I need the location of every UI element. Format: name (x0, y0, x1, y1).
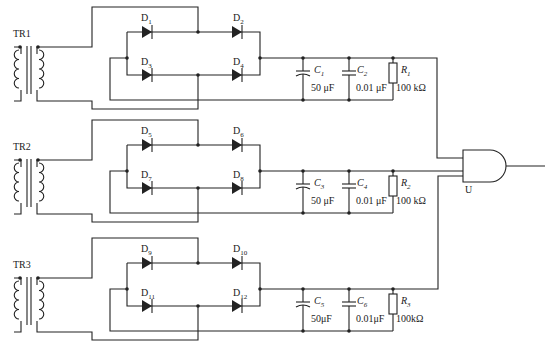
diode-icon (142, 300, 152, 312)
resistor-label: R2 (400, 177, 411, 191)
capacitor-value: 0.01 μF (356, 195, 387, 206)
wire (37, 7, 198, 54)
resistor-value: 100 kΩ (396, 195, 426, 206)
junction-dot (196, 304, 200, 308)
wire (14, 203, 21, 214)
diode-icon (142, 26, 152, 38)
rectifier-stage-2: TR2D5D6D7D8C3C4R250 μF0.01 μF100 kΩ (13, 120, 426, 222)
diode-label: D9 (141, 243, 152, 257)
rectifier-stage-3: TR3D9D10D11D12C5C6R350μF0.01μF100kΩ (13, 238, 423, 340)
wire (14, 321, 21, 332)
secondary-coil (39, 281, 44, 319)
wire (37, 188, 198, 222)
transformer-label: TR2 (13, 141, 31, 152)
diode-icon (142, 69, 152, 81)
diode-label: D12 (233, 287, 248, 301)
transformer-label: TR3 (13, 259, 31, 270)
circuit-diagram: TR1D1D2D3D4C1C2R150 μF0.01 μF100 kΩTR2D5… (0, 0, 550, 348)
diode-icon (232, 139, 242, 151)
diode-label: D6 (233, 125, 244, 139)
resistor-body (389, 176, 397, 196)
diode-label: D11 (141, 287, 155, 301)
junction-dot (196, 261, 200, 265)
wire (393, 176, 463, 289)
wire (14, 90, 21, 101)
diode-label: D10 (233, 243, 248, 257)
diode-label: D1 (141, 12, 152, 26)
capacitor-value: 0.01μF (356, 313, 385, 324)
rectifier-stage-1: TR1D1D2D3D4C1C2R150 μF0.01 μF100 kΩ (13, 7, 426, 109)
secondary-coil (39, 163, 44, 201)
diode-icon (142, 139, 152, 151)
resistor-body (389, 294, 397, 314)
junction-dot (196, 186, 200, 190)
capacitor-label: C6 (357, 295, 368, 309)
wire (37, 75, 198, 109)
wire (37, 120, 198, 167)
diode-icon (232, 69, 242, 81)
junction-dot (196, 30, 200, 34)
resistor-label: R1 (400, 64, 411, 78)
capacitor-value: 50μF (311, 313, 332, 324)
diode-label: D8 (233, 169, 244, 183)
diode-icon (142, 257, 152, 269)
resistor-value: 100 kΩ (396, 82, 426, 93)
diode-icon (232, 300, 242, 312)
diode-icon (232, 26, 242, 38)
wire (37, 238, 198, 285)
secondary-coil (39, 50, 44, 88)
diode-icon (232, 257, 242, 269)
capacitor-label: C1 (314, 64, 324, 78)
diode-icon (142, 182, 152, 194)
diode-label: D2 (233, 12, 244, 26)
capacitor-value: 50 μF (311, 195, 335, 206)
capacitor-value: 0.01 μF (356, 82, 387, 93)
diode-label: D7 (141, 169, 152, 183)
diode-label: D5 (141, 125, 152, 139)
primary-coil (14, 163, 19, 201)
gate-label: U (465, 184, 473, 195)
wire (37, 306, 198, 340)
resistor-value: 100kΩ (396, 313, 423, 324)
capacitor-label: C4 (357, 177, 368, 191)
diode-label: D4 (233, 56, 244, 70)
capacitor-label: C3 (314, 177, 325, 191)
transformer-label: TR1 (13, 28, 31, 39)
junction-dot (196, 143, 200, 147)
resistor-body (389, 63, 397, 83)
primary-coil (14, 50, 19, 88)
capacitor-label: C2 (357, 64, 368, 78)
diode-icon (232, 182, 242, 194)
primary-coil (14, 281, 19, 319)
capacitor-label: C5 (314, 295, 325, 309)
junction-dot (196, 73, 200, 77)
diode-label: D3 (141, 56, 152, 70)
resistor-label: R3 (400, 295, 411, 309)
capacitor-value: 50 μF (311, 82, 335, 93)
schematic: TR1D1D2D3D4C1C2R150 μF0.01 μF100 kΩTR2D5… (0, 0, 550, 348)
